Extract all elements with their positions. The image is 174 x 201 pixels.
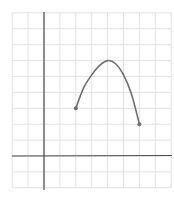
x-axis	[12, 156, 172, 157]
grid	[12, 12, 171, 188]
chart	[0, 0, 174, 201]
endpoint-dot	[74, 106, 78, 110]
endpoint-dot	[137, 122, 141, 126]
